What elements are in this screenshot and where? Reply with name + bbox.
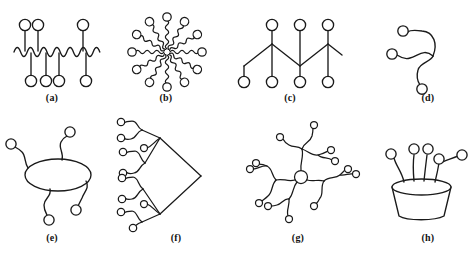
panel-b-star-radial bbox=[118, 0, 218, 95]
pendant-node bbox=[266, 19, 277, 30]
ring-arm bbox=[44, 189, 50, 215]
macrocycle-ring bbox=[25, 159, 91, 191]
dendron-terminals bbox=[117, 118, 145, 231]
backbone-zigzag bbox=[244, 44, 342, 66]
pendant-node bbox=[25, 75, 36, 86]
pendant-node bbox=[294, 19, 305, 30]
panel-h-calixarene-cup bbox=[382, 130, 476, 230]
caption-e: (e) bbox=[32, 232, 72, 243]
terminal-node bbox=[387, 49, 397, 59]
caption-b: (b) bbox=[146, 92, 186, 103]
terminal-node bbox=[398, 26, 408, 36]
terminal-node bbox=[386, 149, 396, 159]
branch-arm bbox=[397, 53, 433, 59]
pendant-node bbox=[266, 76, 277, 87]
branch-arm bbox=[307, 180, 324, 181]
cup-arm bbox=[413, 155, 414, 181]
branch-node-left bbox=[247, 160, 277, 207]
terminal-node bbox=[434, 154, 444, 164]
backbone-wavy bbox=[14, 48, 100, 57]
terminal-node bbox=[44, 215, 54, 225]
branch-arm bbox=[301, 149, 303, 170]
pendant-node bbox=[77, 19, 88, 30]
pendant-node bbox=[40, 75, 51, 86]
terminal-node bbox=[65, 127, 75, 137]
cup-arm bbox=[424, 155, 427, 181]
caption-d: (d) bbox=[408, 92, 448, 103]
caption-g: (g) bbox=[278, 232, 318, 243]
panel-d-three-arm-branch bbox=[376, 0, 476, 95]
panel-f-dendron bbox=[112, 118, 216, 230]
branch-arm bbox=[289, 182, 297, 199]
pendant-node bbox=[322, 19, 333, 30]
pendant-node bbox=[32, 19, 43, 30]
caption-a: (a) bbox=[32, 92, 72, 103]
dendron-branch bbox=[142, 130, 160, 138]
caption-h: (h) bbox=[408, 232, 448, 243]
branch-node-up bbox=[277, 122, 339, 165]
dendron-branch bbox=[160, 176, 201, 214]
pendant-node bbox=[19, 19, 30, 30]
ring-arm bbox=[15, 147, 28, 168]
pendant-node bbox=[238, 76, 249, 87]
pendant-node bbox=[294, 76, 305, 87]
caption-c: (c) bbox=[270, 92, 310, 103]
core-node bbox=[295, 171, 308, 184]
terminal-node bbox=[6, 139, 16, 149]
dendron-branch bbox=[142, 214, 160, 222]
branch-arm bbox=[408, 30, 435, 56]
cup-rim bbox=[392, 179, 451, 195]
branch-arm bbox=[417, 56, 433, 85]
terminal-node bbox=[409, 144, 419, 154]
terminal-node bbox=[457, 150, 467, 160]
pendant-node bbox=[322, 76, 333, 87]
dendron-extra-terminals bbox=[141, 138, 161, 214]
star-arms bbox=[128, 13, 206, 91]
panel-a-linear-comb bbox=[0, 0, 114, 95]
branch-node-down bbox=[265, 199, 293, 223]
panel-e-macrocycle bbox=[6, 128, 116, 228]
pendant-node bbox=[53, 75, 64, 86]
panel-g-hyperbranched-star bbox=[240, 124, 362, 228]
ring-arm bbox=[60, 136, 67, 160]
pendant-node bbox=[80, 75, 91, 86]
terminal-node bbox=[423, 144, 433, 154]
branch-arm bbox=[276, 179, 295, 180]
panel-c-zigzag-pendant bbox=[236, 0, 354, 95]
caption-f: (f) bbox=[156, 232, 196, 243]
dendron-branch bbox=[160, 138, 201, 176]
terminal-node bbox=[71, 205, 81, 215]
cup-arm bbox=[435, 163, 439, 182]
cup-arm bbox=[394, 158, 404, 182]
branch-node-right bbox=[311, 166, 360, 210]
polymer-architecture-figure: (a) (b) (c) (d) (e) (f) (g) (h) bbox=[0, 0, 476, 254]
